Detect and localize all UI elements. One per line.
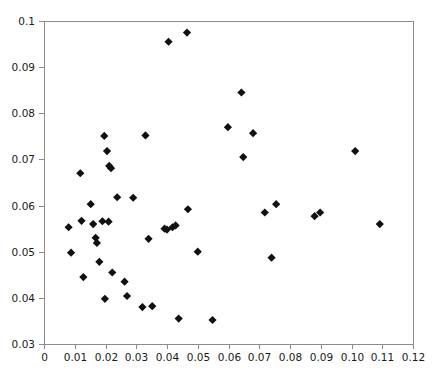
x-tick-label: 0.06 [218, 351, 242, 363]
plot-frame-rect [45, 22, 414, 345]
y-tick-label: 0.09 [12, 61, 35, 73]
scatter-point [89, 220, 97, 228]
scatter-point [95, 258, 103, 266]
x-tick-label: 0.08 [279, 351, 302, 363]
scatter-point [77, 217, 85, 225]
scatter-point [237, 88, 245, 96]
y-tick-label: 0.05 [12, 246, 35, 258]
y-tick-label: 0.08 [12, 107, 35, 119]
scatter-point [79, 273, 87, 281]
x-tick-label: 0.01 [64, 351, 87, 363]
scatter-point [267, 254, 275, 262]
scatter-point [87, 200, 95, 208]
scatter-point [194, 248, 202, 256]
x-tick-label: 0.09 [310, 351, 333, 363]
scatter-plot-figure: 00.010.020.030.040.050.060.070.080.090.1… [0, 0, 442, 388]
scatter-point [67, 249, 75, 257]
scatter-point [141, 131, 149, 139]
scatter-point [113, 193, 121, 201]
scatter-point [164, 38, 172, 46]
x-tick-label: 0.02 [95, 351, 118, 363]
scatter-point [208, 316, 216, 324]
scatter-point [108, 268, 116, 276]
scatter-point [100, 132, 108, 140]
scatter-point [249, 129, 257, 137]
scatter-point [239, 153, 247, 161]
x-tick-label: 0.03 [125, 351, 148, 363]
scatter-point [76, 169, 84, 177]
scatter-series [65, 28, 384, 324]
scatter-point [261, 208, 269, 216]
scatter-point [148, 302, 156, 310]
x-tick-label: 0 [41, 351, 48, 363]
y-axis-ticks [39, 22, 44, 345]
x-tick-label: 0.10 [341, 351, 364, 363]
plot-frame [45, 22, 414, 345]
x-tick-label: 0.05 [187, 351, 210, 363]
scatter-point [144, 235, 152, 243]
x-tick-label: 0.07 [248, 351, 271, 363]
scatter-point [175, 315, 183, 323]
plot-canvas: 00.010.020.030.040.050.060.070.080.090.1… [0, 0, 442, 388]
y-tick-label: 0.07 [12, 153, 35, 165]
scatter-point [104, 218, 112, 226]
y-tick-label: 0.06 [12, 200, 36, 212]
scatter-point [129, 194, 137, 202]
scatter-point [351, 147, 359, 155]
scatter-point [184, 205, 192, 213]
scatter-point [376, 220, 384, 228]
scatter-point [123, 292, 131, 300]
scatter-point [120, 278, 128, 286]
x-axis-tick-labels: 00.010.020.030.040.050.060.070.080.090.1… [41, 351, 425, 363]
x-tick-label: 0.12 [402, 351, 425, 363]
y-axis-tick-labels: 0.030.040.050.060.070.080.090.1 [12, 15, 36, 350]
scatter-point [101, 295, 109, 303]
scatter-point [65, 223, 73, 231]
y-tick-label: 0.03 [12, 338, 35, 350]
x-tick-label: 0.11 [371, 351, 394, 363]
scatter-point [103, 147, 111, 155]
y-tick-label: 0.1 [18, 15, 35, 27]
scatter-point [138, 303, 146, 311]
y-tick-label: 0.04 [12, 292, 36, 304]
scatter-point [183, 28, 191, 36]
x-tick-label: 0.04 [156, 351, 180, 363]
scatter-point [224, 123, 232, 131]
scatter-point [272, 200, 280, 208]
